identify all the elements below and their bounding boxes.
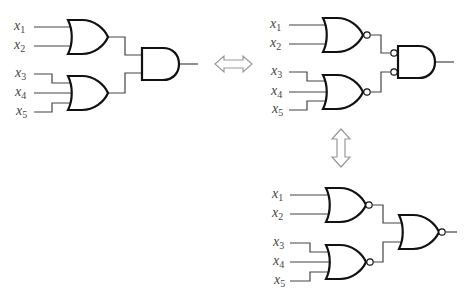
- logic-diagram: [0, 0, 471, 304]
- input-label-x1: x1: [272, 187, 283, 203]
- input-label-x2: x2: [14, 38, 25, 54]
- input-label-x3: x3: [271, 64, 282, 80]
- circuit-nor-and-inverted: [289, 18, 454, 110]
- inversion-bubble: [364, 32, 370, 38]
- nor-gate: [326, 188, 366, 222]
- input-label-x2: x2: [272, 206, 283, 222]
- and-gate-inverted-inputs: [398, 46, 435, 78]
- inversion-bubble: [367, 259, 373, 265]
- input-label-x4: x4: [273, 254, 284, 270]
- inversion-bubble: [366, 202, 372, 208]
- and-gate: [142, 48, 179, 80]
- circuit-nor-nor: [290, 188, 457, 281]
- or-gate: [68, 76, 108, 110]
- double-arrow-horizontal-icon: [215, 56, 252, 72]
- input-label-x3: x3: [15, 66, 26, 82]
- input-label-x1: x1: [270, 17, 281, 33]
- inversion-bubble: [391, 69, 397, 75]
- input-label-x4: x4: [15, 85, 26, 101]
- input-label-x3: x3: [273, 235, 284, 251]
- double-arrow-vertical-icon: [332, 129, 350, 167]
- input-label-x5: x5: [16, 104, 27, 120]
- input-label-x1: x1: [14, 19, 25, 35]
- input-label-x5: x5: [274, 273, 285, 289]
- circuit-or-and: [34, 20, 198, 112]
- inversion-bubble: [364, 89, 370, 95]
- input-label-x4: x4: [271, 84, 282, 100]
- or-gate: [68, 20, 108, 54]
- input-label-x5: x5: [272, 102, 283, 118]
- inversion-bubble: [439, 229, 445, 235]
- nor-gate: [323, 75, 363, 109]
- nor-gate: [323, 18, 363, 52]
- input-label-x2: x2: [270, 36, 281, 52]
- nor-gate: [326, 245, 366, 279]
- nor-gate-output: [399, 215, 439, 249]
- inversion-bubble: [391, 50, 397, 56]
